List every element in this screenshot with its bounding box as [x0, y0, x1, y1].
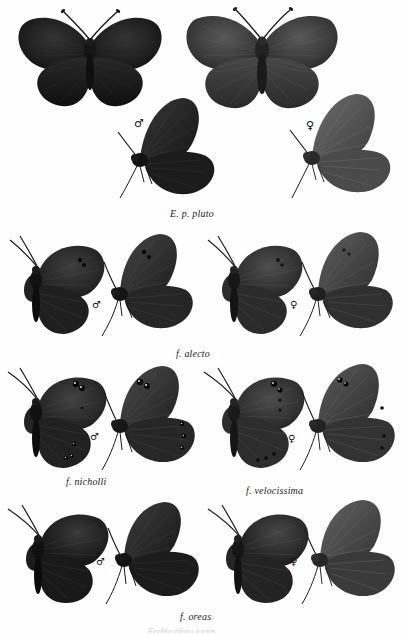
caption-velocissima: f. velocissima — [246, 485, 303, 496]
specimen-pluto-male-ventral — [118, 96, 224, 206]
sex-mark-male-nicholli: ♂ — [90, 432, 99, 442]
sex-mark-female-velocissima: ♀ — [288, 434, 295, 444]
specimen-oreas-male-dorsal — [0, 503, 118, 607]
specimen-pluto-female-ventral — [288, 92, 400, 206]
specimen-alecto-female-ventral — [296, 230, 404, 342]
sex-mark-male-alecto: ♂ — [92, 300, 101, 310]
sex-mark-male-oreas: ♂ — [96, 557, 105, 567]
footer-cutoff-line: Erebia pluto forms — [148, 626, 216, 633]
specimen-velocissima-female-ventral — [296, 362, 404, 476]
sex-mark-female-alecto: ♀ — [290, 300, 297, 310]
specimen-nicholli-male-ventral — [98, 364, 204, 476]
caption-nicholli: f. nicholli — [66, 476, 107, 487]
caption-pluto: E. p. pluto — [170, 208, 214, 219]
caption-oreas: f. oreas — [180, 611, 211, 622]
specimen-oreas-female-ventral — [298, 498, 404, 610]
caption-alecto: f. alecto — [176, 348, 210, 359]
sex-mark-female-oreas: ♀ — [290, 557, 297, 567]
specimen-plate: ♂ ♀ E. p. pluto — [0, 0, 405, 634]
sex-mark-male-pluto: ♂ — [134, 118, 144, 129]
specimen-alecto-male-ventral — [98, 232, 202, 342]
sex-mark-female-pluto: ♀ — [306, 120, 314, 131]
specimen-oreas-male-ventral — [102, 500, 206, 610]
